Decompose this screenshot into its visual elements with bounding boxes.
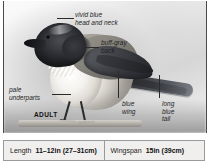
- measurement-value-length: 11–12in (27–31cm): [35, 147, 97, 154]
- annotation-tail-line3: tail: [162, 115, 174, 123]
- bird-bill: [24, 38, 47, 49]
- annotation-head-neck: vivid blue head and neck: [75, 11, 118, 26]
- annotation-wing-line1: blue: [122, 100, 135, 108]
- measurement-cell-length: Length 11–12in (27–31cm): [4, 141, 104, 160]
- bird-nape: [62, 35, 92, 63]
- leader-line-back: [84, 47, 99, 48]
- annotation-tail-line2: blue: [162, 108, 174, 116]
- age-caption-adult: ADULT: [34, 111, 58, 118]
- bird-eye: [46, 35, 50, 39]
- bird-perch: [18, 120, 142, 127]
- measurement-value-wingspan: 15in (39cm): [146, 147, 185, 154]
- leader-line-wing: [118, 71, 119, 98]
- annotation-tail: long blue tail: [162, 100, 174, 123]
- photo-inner: vivid blue head and neck buff-gray back …: [4, 1, 206, 133]
- annotation-head-neck-line2: head and neck: [75, 19, 118, 27]
- measurement-label-length: Length: [10, 147, 31, 154]
- leader-line-head-neck: [57, 18, 74, 19]
- annotation-underparts: pale underparts: [9, 86, 40, 101]
- annotation-underparts-line1: pale: [9, 86, 40, 94]
- bird-leg-left: [63, 101, 70, 121]
- annotation-head-neck-line1: vivid blue: [75, 11, 118, 19]
- annotation-back-line2: back: [101, 47, 127, 55]
- annotation-wing: blue wing: [122, 100, 135, 115]
- measurement-cell-wingspan: Wingspan 15in (39cm): [104, 141, 205, 160]
- annotation-back-line1: buff-gray: [101, 39, 127, 47]
- bird-photo-panel: vivid blue head and neck buff-gray back …: [3, 1, 207, 133]
- measurement-label-wingspan: Wingspan: [111, 147, 142, 154]
- annotation-tail-line1: long: [162, 100, 174, 108]
- measurement-bar: Length 11–12in (27–31cm) Wingspan 15in (…: [3, 140, 205, 161]
- bird-id-plate: vivid blue head and neck buff-gray back …: [0, 0, 208, 167]
- leader-line-underparts: [52, 94, 71, 95]
- annotation-underparts-line2: underparts: [9, 94, 40, 102]
- annotation-back: buff-gray back: [101, 39, 127, 54]
- annotation-wing-line2: wing: [122, 108, 135, 116]
- leader-line-tail: [159, 75, 160, 98]
